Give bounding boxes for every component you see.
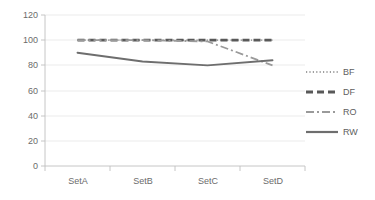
legend-item-bf[interactable]: BF <box>305 62 375 82</box>
series-line-rw <box>78 53 273 66</box>
x-axis-ticks <box>45 166 305 171</box>
legend-label-ro: RO <box>343 108 357 117</box>
chart-legend: BF DF RO RW <box>305 62 375 142</box>
series-line-ro <box>78 40 273 65</box>
legend-item-ro[interactable]: RO <box>305 102 375 122</box>
dashed-line-key <box>305 87 339 97</box>
solid-line-key <box>305 127 339 137</box>
legend-item-rw[interactable]: RW <box>305 122 375 142</box>
dotted-line-key <box>305 67 339 77</box>
dash-dot-line-key <box>305 107 339 117</box>
line-chart: 120 100 80 60 40 20 0 SetA SetB SetC Set… <box>0 0 375 200</box>
legend-label-bf: BF <box>343 68 355 77</box>
gridlines <box>45 15 305 141</box>
y-axis-ticks <box>41 15 45 166</box>
legend-label-rw: RW <box>343 128 358 137</box>
legend-item-df[interactable]: DF <box>305 82 375 102</box>
legend-label-df: DF <box>343 88 355 97</box>
